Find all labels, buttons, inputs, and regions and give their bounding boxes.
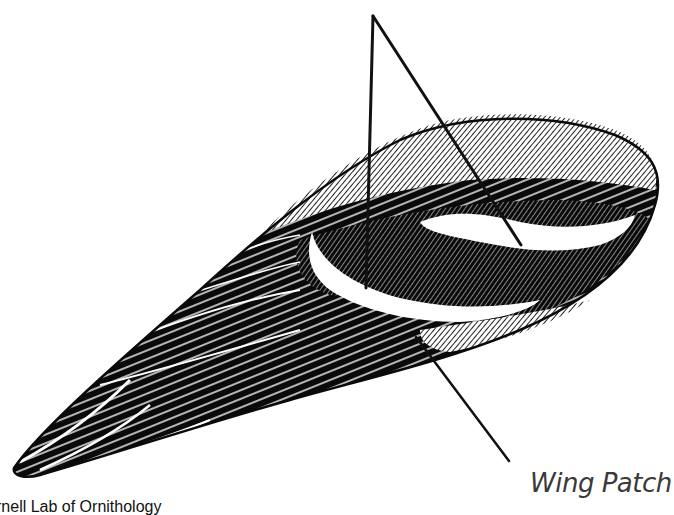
wing-shape [14, 114, 658, 476]
credit-text: rnell Lab of Ornithology [0, 499, 161, 515]
wing-patch-leader [416, 337, 509, 461]
wing-illustration [0, 0, 674, 515]
wing-patch-label: Wing Patch [530, 468, 672, 498]
